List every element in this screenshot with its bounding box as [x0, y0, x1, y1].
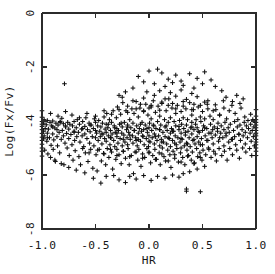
- y-tick-label: -2: [24, 60, 37, 74]
- y-tick-label: -8: [24, 222, 37, 236]
- x-tick-label: -1.0: [28, 239, 57, 252]
- scatter-plot-figure: -1.0-0.50.00.51.00-2-4-6-8HRLog(Fx/Fv): [0, 0, 275, 274]
- y-axis-title: Log(Fx/Fv): [3, 85, 16, 156]
- plot-canvas: -1.0-0.50.00.51.00-2-4-6-8HRLog(Fx/Fv): [0, 0, 275, 274]
- y-tick-label: -4: [24, 114, 37, 128]
- x-tick-label: 0.0: [138, 239, 159, 252]
- y-tick-label: -6: [24, 168, 37, 182]
- x-tick-label: 1.0: [245, 239, 266, 252]
- x-tick-label: 0.5: [192, 239, 213, 252]
- x-axis-title: HR: [142, 254, 156, 267]
- y-tick-label: 0: [24, 9, 37, 16]
- x-tick-label: -0.5: [81, 239, 110, 252]
